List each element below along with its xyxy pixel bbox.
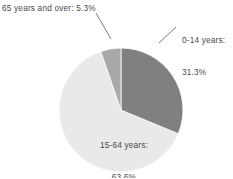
pie-label-15-64-years: 15-64 years: 63.6% xyxy=(86,119,162,178)
leader-line-0-14-years xyxy=(159,27,176,43)
pie-label-0-14-years: 0-14 years: 31.3% xyxy=(182,14,225,98)
leader-line-65-years-and-over xyxy=(96,13,111,39)
pie-chart-screenshot: 65 years and over: 5.3% 0-14 years: 31.3… xyxy=(0,0,233,178)
pie-label-15-64-years-category: 15-64 years: xyxy=(86,140,162,151)
pie-label-15-64-years-value: 63.6% xyxy=(86,172,162,179)
pie-label-0-14-years-value: 31.3% xyxy=(182,67,225,78)
pie-label-0-14-years-category: 0-14 years: xyxy=(182,35,225,46)
pie-label-65-years-and-over: 65 years and over: 5.3% xyxy=(2,3,96,14)
